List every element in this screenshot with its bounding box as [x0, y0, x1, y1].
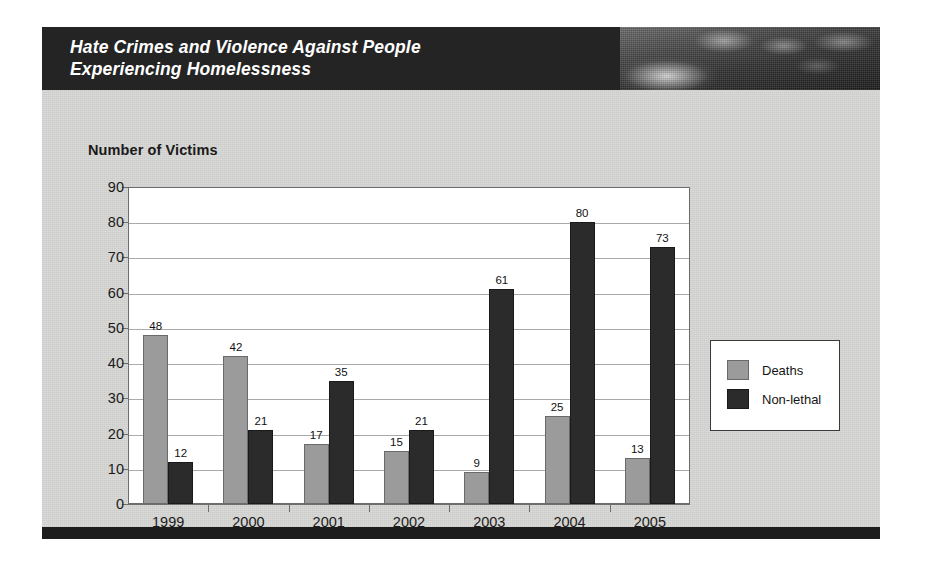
y-tick-label: 90	[80, 179, 124, 195]
bar-series-group: 481242211735152196125801373	[128, 187, 690, 504]
chart-card: Hate Crimes and Violence Against People …	[42, 27, 880, 539]
bar-deaths[interactable]	[143, 335, 168, 504]
x-tick-mark	[369, 504, 370, 512]
x-axis-line	[128, 504, 690, 505]
bar-deaths[interactable]	[304, 444, 329, 504]
nonlethal-swatch-icon	[727, 389, 749, 409]
bar-deaths[interactable]	[545, 416, 570, 504]
y-tick-label: 70	[80, 249, 124, 265]
y-tick-label: 80	[80, 214, 124, 230]
legend-label: Deaths	[762, 363, 803, 378]
legend-item-deaths[interactable]: Deaths	[727, 360, 829, 380]
bar-group	[625, 187, 675, 504]
chart-container: Number of Victims 0102030405060708090 48…	[42, 90, 880, 527]
card-footer-band	[42, 527, 880, 539]
y-tick-label: 30	[80, 390, 124, 406]
bar-nonlethal[interactable]	[489, 289, 514, 504]
bar-group	[304, 187, 354, 504]
bar-nonlethal[interactable]	[409, 430, 434, 504]
bar-nonlethal[interactable]	[650, 247, 675, 504]
bar-group	[384, 187, 434, 504]
bar-group	[143, 187, 193, 504]
y-axis-labels: 0102030405060708090	[72, 187, 124, 504]
x-tick-mark	[289, 504, 290, 512]
deaths-swatch-icon	[727, 360, 749, 380]
bar-group	[545, 187, 595, 504]
bar-nonlethal[interactable]	[329, 381, 354, 504]
y-tick-label: 60	[80, 285, 124, 301]
y-tick-label: 40	[80, 355, 124, 371]
bar-nonlethal[interactable]	[248, 430, 273, 504]
legend-label: Non-lethal	[762, 392, 821, 407]
page-title: Hate Crimes and Violence Against People …	[70, 36, 610, 80]
bar-deaths[interactable]	[464, 472, 489, 504]
legend-item-nonlethal[interactable]: Non-lethal	[727, 389, 829, 409]
bar-nonlethal[interactable]	[168, 462, 193, 504]
x-tick-mark	[529, 504, 530, 512]
y-axis-title: Number of Victims	[88, 142, 218, 158]
chart-legend: Deaths Non-lethal	[710, 340, 840, 431]
x-tick-mark	[208, 504, 209, 512]
y-tick-label: 20	[80, 426, 124, 442]
bar-group	[464, 187, 514, 504]
bar-group	[223, 187, 273, 504]
bar-deaths[interactable]	[223, 356, 248, 504]
x-tick-mark	[610, 504, 611, 512]
y-tick-label: 10	[80, 461, 124, 477]
card-header: Hate Crimes and Violence Against People …	[42, 27, 880, 90]
header-photo-image	[620, 27, 880, 90]
bar-nonlethal[interactable]	[570, 222, 595, 504]
bar-deaths[interactable]	[625, 458, 650, 504]
bar-deaths[interactable]	[384, 451, 409, 504]
y-tick-label: 0	[80, 496, 124, 512]
y-tick-label: 50	[80, 320, 124, 336]
x-tick-mark	[449, 504, 450, 512]
